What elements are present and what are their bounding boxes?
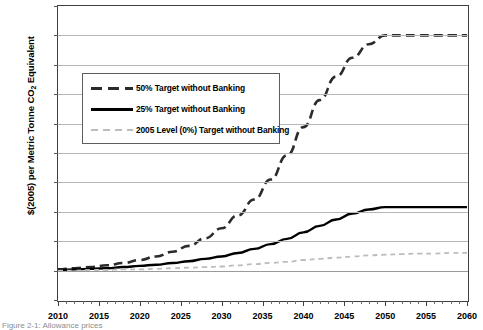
x-major-tick xyxy=(467,301,468,306)
x-minor-tick xyxy=(312,301,313,304)
x-minor-tick xyxy=(197,301,198,304)
x-major-tick xyxy=(263,301,264,306)
legend-swatch-dashed-dark xyxy=(91,82,133,94)
x-minor-tick xyxy=(459,301,460,304)
chart-legend: 50% Target without Banking 25% Target wi… xyxy=(82,73,280,144)
x-minor-tick xyxy=(442,301,443,304)
y-tick-mark xyxy=(54,35,58,36)
x-minor-tick xyxy=(451,301,452,304)
x-minor-tick xyxy=(402,301,403,304)
x-minor-tick xyxy=(156,301,157,304)
y-tick-mark xyxy=(54,124,58,125)
legend-item-25-target: 25% Target without Banking xyxy=(91,103,245,115)
x-minor-tick xyxy=(271,301,272,304)
x-minor-tick xyxy=(107,301,108,304)
x-major-tick xyxy=(426,301,427,306)
x-minor-tick xyxy=(115,301,116,304)
legend-label-2005-level-target: 2005 Level (0%) Target without Banking xyxy=(136,125,289,135)
y-tick-mark xyxy=(54,6,58,7)
legend-swatch-solid-black xyxy=(91,103,133,115)
x-major-tick xyxy=(99,301,100,306)
x-tick-label: 2060 xyxy=(437,311,483,321)
x-minor-tick xyxy=(246,301,247,304)
legend-swatch-dashed-gray xyxy=(91,124,133,136)
x-minor-tick xyxy=(393,301,394,304)
x-major-tick xyxy=(385,301,386,306)
y-axis-title: $(2005) per Metric Tonne CO2 Equivalent xyxy=(25,1,36,251)
x-major-tick xyxy=(140,301,141,306)
y-tick-mark xyxy=(54,153,58,154)
x-major-tick xyxy=(303,301,304,306)
plot-area: $450.00$400.00$350.00$300.00$250.00$200.… xyxy=(57,5,469,302)
legend-label-25-target: 25% Target without Banking xyxy=(136,104,245,114)
x-minor-tick xyxy=(410,301,411,304)
y-tick-mark xyxy=(54,182,58,183)
y-tick-mark xyxy=(54,212,58,213)
x-minor-tick xyxy=(295,301,296,304)
y-tick-mark xyxy=(54,271,58,272)
x-minor-tick xyxy=(279,301,280,304)
x-minor-tick xyxy=(254,301,255,304)
gridline xyxy=(58,212,468,213)
x-major-tick xyxy=(181,301,182,306)
gridline xyxy=(58,65,468,66)
x-minor-tick xyxy=(123,301,124,304)
y-tick-mark xyxy=(54,65,58,66)
x-minor-tick xyxy=(230,301,231,304)
x-minor-tick xyxy=(132,301,133,304)
x-minor-tick xyxy=(361,301,362,304)
x-minor-tick xyxy=(91,301,92,304)
x-minor-tick xyxy=(328,301,329,304)
x-minor-tick xyxy=(189,301,190,304)
y-tick-mark xyxy=(54,241,58,242)
x-minor-tick xyxy=(74,301,75,304)
x-minor-tick xyxy=(173,301,174,304)
x-minor-tick xyxy=(418,301,419,304)
x-minor-tick xyxy=(83,301,84,304)
x-minor-tick xyxy=(434,301,435,304)
x-minor-tick xyxy=(164,301,165,304)
legend-item-2005-level-target: 2005 Level (0%) Target without Banking xyxy=(91,124,289,136)
x-minor-tick xyxy=(287,301,288,304)
x-minor-tick xyxy=(352,301,353,304)
gridline xyxy=(58,182,468,183)
legend-item-50-target: 50% Target without Banking xyxy=(91,82,245,94)
x-minor-tick xyxy=(320,301,321,304)
x-major-tick xyxy=(222,301,223,306)
x-minor-tick xyxy=(213,301,214,304)
series-line xyxy=(58,207,467,270)
gridline xyxy=(58,241,468,242)
x-minor-tick xyxy=(66,301,67,304)
y-tick-mark xyxy=(54,94,58,95)
legend-label-50-target: 50% Target without Banking xyxy=(136,83,245,93)
x-major-tick xyxy=(344,301,345,306)
x-major-tick xyxy=(58,301,59,306)
gridline xyxy=(58,153,468,154)
x-minor-tick xyxy=(336,301,337,304)
x-minor-tick xyxy=(205,301,206,304)
figure-caption: Figure 2-1: Allowance prices xyxy=(2,321,302,330)
x-minor-tick xyxy=(369,301,370,304)
x-minor-tick xyxy=(377,301,378,304)
x-minor-tick xyxy=(238,301,239,304)
x-minor-tick xyxy=(148,301,149,304)
gridline xyxy=(58,35,468,36)
gridline xyxy=(58,271,468,272)
